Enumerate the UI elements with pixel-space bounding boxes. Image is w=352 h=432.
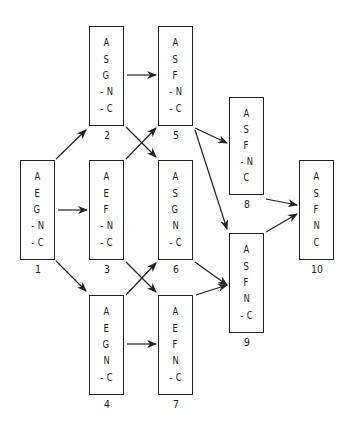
node-box: A S F N C (299, 160, 334, 260)
arrow-2-to-6 (126, 127, 156, 157)
node-line: A (243, 244, 249, 256)
node-line: C (313, 237, 319, 249)
node-line: N (243, 293, 250, 305)
node-line: - N (100, 220, 113, 232)
node-box: A E F N - C (158, 295, 193, 395)
node-line: A (103, 37, 109, 49)
node-line: - C (169, 237, 182, 249)
node-line: G (34, 204, 41, 216)
arrow-3-to-5 (126, 128, 156, 159)
node-line: - C (240, 310, 253, 322)
node-line: - N (100, 86, 113, 98)
node-line: - N (169, 86, 182, 98)
arrow-5-to-8 (195, 128, 227, 143)
node-line: - N (240, 156, 253, 168)
node-line: - C (169, 372, 182, 384)
node-box: A S F - N C (229, 97, 264, 195)
node-line: G (103, 70, 110, 82)
node-line: N (172, 355, 179, 367)
node-line: A (34, 171, 40, 183)
arrow-1-to-2 (56, 130, 86, 159)
node-box: A E F - N - C (89, 160, 124, 260)
node-box: A S F - N - C (158, 26, 193, 126)
node-number-label: 6 (160, 263, 191, 276)
node-line: E (104, 188, 110, 200)
node-box: A E G - N - C (20, 160, 55, 260)
node-line: A (172, 171, 178, 183)
node-line: N (103, 355, 110, 367)
node-line: A (172, 37, 178, 49)
node-line: S (244, 261, 250, 273)
node-line: S (173, 188, 179, 200)
node-line: G (103, 339, 110, 351)
node-line: E (104, 323, 110, 335)
arrow-7-to-9 (196, 285, 227, 295)
node-number-label: 1 (22, 263, 53, 276)
node-box: A E G N - C (89, 295, 124, 395)
node-line: - C (100, 103, 113, 115)
node-number-label: 10 (301, 263, 332, 276)
node-line: - C (169, 103, 182, 115)
node-line: F (244, 277, 249, 289)
node-line: - C (31, 237, 44, 249)
arrow-1-to-4 (56, 261, 86, 291)
node-line: A (172, 306, 178, 318)
arrow-8-to-10 (266, 199, 297, 205)
node-line: S (244, 124, 250, 136)
node-line: G (172, 204, 179, 216)
node-line: - C (100, 372, 113, 384)
node-line: E (173, 323, 179, 335)
node-line: E (35, 188, 41, 200)
node-line: A (243, 108, 249, 120)
node-line: - N (31, 220, 44, 232)
node-line: F (314, 204, 319, 216)
node-line: C (243, 172, 249, 184)
node-line: A (103, 171, 109, 183)
node-line: N (313, 220, 320, 232)
node-number-label: 5 (160, 129, 191, 142)
node-line: N (172, 220, 179, 232)
arrow-3-to-7 (126, 262, 156, 292)
arrow-5-to-9 (195, 130, 227, 229)
arrow-9-to-10 (266, 214, 297, 232)
node-line: A (103, 306, 109, 318)
node-box: A S F N - C (229, 233, 264, 333)
node-number-label: 2 (91, 129, 122, 142)
node-line: S (173, 54, 179, 66)
node-number-label: 4 (91, 398, 122, 411)
node-line: F (173, 70, 178, 82)
node-line: S (314, 188, 320, 200)
node-number-label: 3 (91, 263, 122, 276)
node-box: A S G - N - C (89, 26, 124, 126)
node-line: F (244, 140, 249, 152)
node-number-label: 7 (160, 398, 191, 411)
node-line: - C (100, 237, 113, 249)
node-line: S (104, 54, 110, 66)
node-line: A (313, 171, 319, 183)
node-number-label: 8 (231, 198, 262, 211)
arrow-6-to-9 (195, 262, 227, 285)
node-line: F (173, 339, 178, 351)
node-number-label: 9 (231, 336, 262, 349)
node-box: A S G N - C (158, 160, 193, 260)
node-line: F (104, 204, 109, 216)
arrow-4-to-6 (126, 263, 156, 295)
pathway-diagram: A E G - N - C 1 A S G - N - C 2 A E F - … (0, 0, 352, 432)
